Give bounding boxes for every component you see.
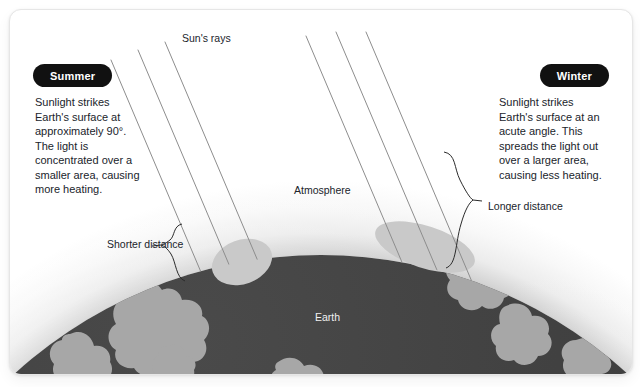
longer-distance-label: Longer distance [488, 200, 563, 212]
summer-badge: Summer [33, 64, 112, 87]
longer-distance-leader [473, 200, 482, 201]
diagram-canvas: Summer Sunlight strikes Earth's surface … [0, 0, 640, 387]
diagram-card: Summer Sunlight strikes Earth's surface … [9, 9, 633, 375]
winter-description: Sunlight strikes Earth's surface at an a… [499, 95, 607, 182]
atmosphere-label: Atmosphere [294, 184, 351, 196]
summer-description: Sunlight strikes Earth's surface at appr… [35, 95, 143, 197]
winter-badge-label: Winter [557, 70, 592, 82]
sun-rays-label: Sun's rays [182, 32, 231, 44]
winter-badge: Winter [540, 64, 609, 87]
summer-badge-label: Summer [50, 70, 95, 82]
earth-label: Earth [315, 311, 340, 323]
shorter-distance-label: Shorter distance [107, 238, 183, 250]
